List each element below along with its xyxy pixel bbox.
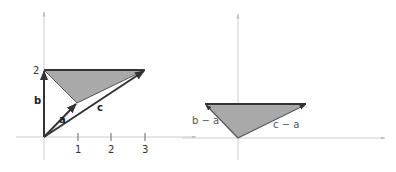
left-plot: 1 2 3 2 b a c: [16, 12, 196, 160]
tick-label-1: 1: [75, 144, 81, 155]
tick-label-2: 2: [108, 144, 114, 155]
label-c-minus-a: c − a: [273, 119, 299, 130]
label-c: c: [97, 102, 103, 113]
label-b: b: [34, 95, 41, 106]
right-plot: b − a c − a: [182, 14, 385, 160]
shaded-triangle: [44, 70, 145, 103]
label-b-minus-a: b − a: [192, 115, 219, 126]
vector-diagram: 1 2 3 2 b a c b − a c − a: [0, 0, 396, 172]
label-a: a: [59, 114, 66, 125]
y-tick-label-2: 2: [33, 65, 39, 76]
tick-label-3: 3: [142, 144, 148, 155]
